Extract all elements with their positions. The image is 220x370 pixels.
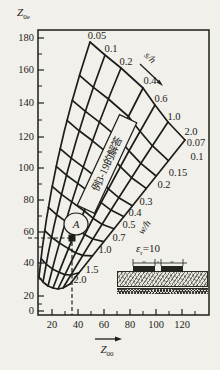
s-over-h-arrow — [140, 64, 159, 82]
inset-height-arrowhead-bottom — [201, 284, 204, 288]
x-axis-arrowhead — [115, 336, 122, 341]
nomogram-plot: 例3-19的解答As/hw/h — [0, 0, 220, 370]
s-over-h-family-label: s/h — [142, 49, 158, 65]
point-a-label: A — [72, 218, 80, 230]
scanned-chart-page: 例3-19的解答As/hw/h Z0e Z00 εr=10 1801601401… — [0, 0, 220, 370]
s-over-h-curve — [70, 140, 185, 284]
w-over-h-family-label: w/h — [135, 218, 152, 236]
inset-height-arrowhead-top — [201, 271, 204, 275]
point-a-marker — [69, 235, 76, 242]
